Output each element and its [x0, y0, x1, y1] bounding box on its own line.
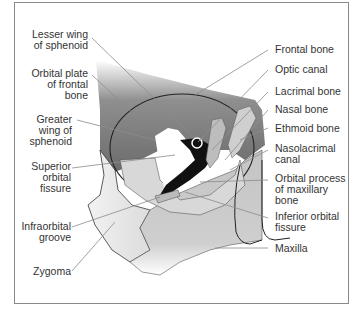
label-greater-wing: Greaterwing ofsphenoid: [20, 114, 72, 147]
label-maxilla: Maxilla: [275, 243, 308, 254]
label-lacrimal-bone: Lacrimal bone: [275, 86, 341, 97]
label-orbital-process: Orbital processof maxillarybone: [275, 173, 346, 206]
label-superior-orbital-fissure: Superiororbitalfissure: [20, 161, 71, 194]
label-frontal-bone: Frontal bone: [275, 44, 334, 55]
label-nasal-bone: Nasal bone: [275, 104, 328, 115]
label-inferior-orbital-fissure: Inferior orbitalfissure: [275, 211, 339, 233]
label-optic-canal: Optic canal: [275, 64, 328, 75]
label-zygoma: Zygoma: [20, 266, 71, 277]
label-orbital-plate: Orbital plateof frontalbone: [20, 68, 88, 101]
label-ethmoid-bone: Ethmoid bone: [275, 123, 340, 134]
label-lesser-wing: Lesser wingof sphenoid: [20, 29, 88, 51]
label-nasolacrimal-canal: Nasolacrimalcanal: [275, 143, 336, 165]
label-infraorbital-groove: Infraorbitalgroove: [14, 221, 71, 243]
